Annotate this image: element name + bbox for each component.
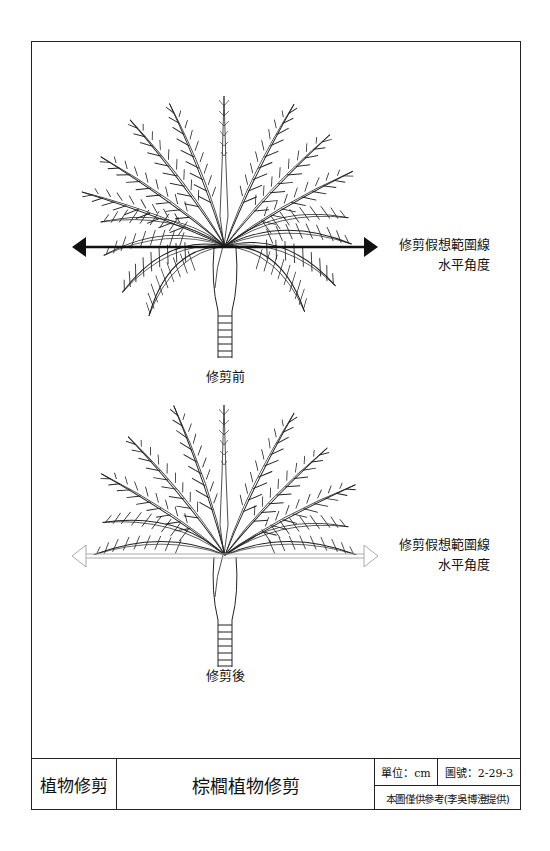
caption-after-pruning: 修剪後: [185, 665, 265, 684]
range-line-label-after: 修剪假想範圍線: [384, 537, 490, 553]
palm-pruning-illustration: [0, 0, 550, 851]
category-cell: 植物修剪: [31, 759, 117, 810]
drawing-title: 棕櫚植物修剪: [117, 759, 375, 810]
title-block: 植物修剪 棕櫚植物修剪 單位：cm 圖號：2-29-3 本圖僅供參考(李吳博澄提…: [31, 758, 521, 810]
angle-label-after: 水平角度: [384, 557, 490, 573]
palm-after-pruning: [94, 401, 358, 667]
reference-note-cell: 本圖僅供參考(李吳博澄提供): [375, 786, 520, 810]
drawing-number-cell: 圖號：2-29-3: [438, 759, 520, 786]
range-line-label-before: 修剪假想範圍線: [384, 237, 490, 253]
angle-label-before: 水平角度: [384, 257, 490, 273]
unit-cell: 單位：cm: [375, 759, 438, 786]
caption-before-pruning: 修剪前: [185, 366, 265, 385]
palm-before-pruning: [80, 96, 356, 358]
